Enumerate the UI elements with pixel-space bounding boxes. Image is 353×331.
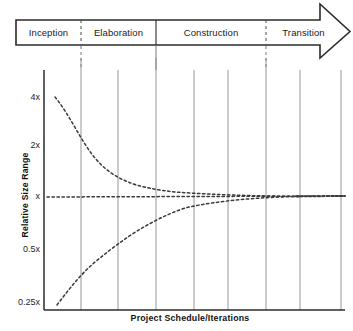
phase-label-transition: Transition <box>266 27 341 38</box>
cone-of-uncertainty-figure: Inception Elaboration Construction Trans… <box>0 0 353 331</box>
y-tick-0-25x: 0.25x <box>0 297 40 307</box>
phase-label-construction: Construction <box>156 27 266 38</box>
x-axis-title: Project Schedule/Iterations <box>40 313 340 323</box>
y-tick-4x: 4x <box>0 92 40 102</box>
phase-label-inception: Inception <box>16 27 81 38</box>
upper-bound-curve <box>55 97 300 197</box>
lower-bound-curve <box>57 197 300 306</box>
phase-label-elaboration: Elaboration <box>81 27 156 38</box>
chart-canvas <box>0 0 353 331</box>
y-axis-title: Relative Size Range <box>20 130 30 260</box>
plot-gridlines <box>81 58 341 310</box>
